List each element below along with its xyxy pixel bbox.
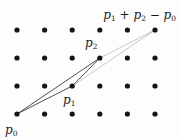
label-p1: p1 [63, 93, 75, 108]
lattice-dot [14, 83, 19, 88]
lattice-dot [97, 83, 102, 88]
lattice-dot [14, 55, 19, 60]
lattice-dot [97, 55, 102, 60]
edge-p2-sum [100, 30, 155, 58]
lattice-dot [97, 27, 102, 32]
label-p2: p2 [85, 36, 97, 51]
edge-p1-p2 [72, 58, 100, 86]
edge-p0-p2 [17, 58, 100, 114]
lattice-dot [14, 27, 19, 32]
lattice-dot [70, 27, 75, 32]
figure-root: p1 + p2 − p0p2p1p0 [0, 0, 179, 139]
lattice-dot [42, 83, 47, 88]
label-p0: p0 [5, 123, 18, 138]
lattice-dot [97, 111, 102, 116]
lattice-dot [14, 111, 19, 116]
lattice-dot [42, 27, 47, 32]
lattice-dot [70, 111, 75, 116]
lattice-dot [152, 55, 157, 60]
lattice-dot [125, 83, 130, 88]
lattice-dot [152, 83, 157, 88]
lattice-dot [42, 55, 47, 60]
label-sum: p1 + p2 − p0 [103, 8, 176, 23]
lattice-diagram: p1 + p2 − p0p2p1p0 [0, 0, 179, 139]
lattice-dot [152, 27, 157, 32]
lattice-dot [125, 111, 130, 116]
lattice-dot [152, 111, 157, 116]
lattice-dot [125, 55, 130, 60]
lattice-dot [42, 111, 47, 116]
lattice-dot [70, 83, 75, 88]
lattice-dot [70, 55, 75, 60]
lattice-dot [125, 27, 130, 32]
